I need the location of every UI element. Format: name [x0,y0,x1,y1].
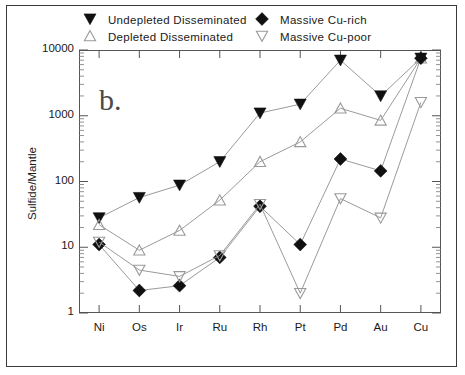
x-tick-label: Rh [240,321,280,333]
y-tick-label: 10000 [42,42,74,54]
x-tick-label: Ir [160,321,200,333]
y-tick-label: 1 [68,305,74,317]
legend-label: Massive Cu-poor [280,31,371,43]
x-tick-label: Au [361,321,401,333]
x-tick-label: Ni [79,321,119,333]
marker-filled-triangle-down [84,14,96,25]
legend-marker-filled-diamond-icon [255,12,269,26]
marker-open-triangle-down [256,31,267,41]
y-axis-title: Sulfide/Mantle [26,147,38,220]
y-tick-label: 100 [55,174,74,186]
marker-open-triangle-up [84,31,95,41]
marker-filled-diamond [256,13,269,26]
x-tick-label: Cu [401,321,441,333]
x-tick-label: Os [119,321,159,333]
x-tick-label: Ru [200,321,240,333]
chart-legend: Undepleted DisseminatedDepleted Dissemin… [0,0,465,46]
y-tick-label: 10 [61,239,74,251]
legend-label: Depleted Disseminated [108,31,233,43]
legend-label: Undepleted Disseminated [108,14,247,26]
legend-marker-open-triangle-up-icon [83,29,97,43]
legend-label: Massive Cu-rich [280,14,367,26]
plot-area [79,50,441,313]
x-tick-label: Pd [320,321,360,333]
legend-marker-filled-triangle-down-icon [83,12,97,26]
chart-screenshot: Undepleted DisseminatedDepleted Dissemin… [0,0,465,375]
x-tick-label: Pt [280,321,320,333]
y-tick-label: 1000 [48,108,74,120]
legend-marker-open-triangle-down-icon [255,29,269,43]
